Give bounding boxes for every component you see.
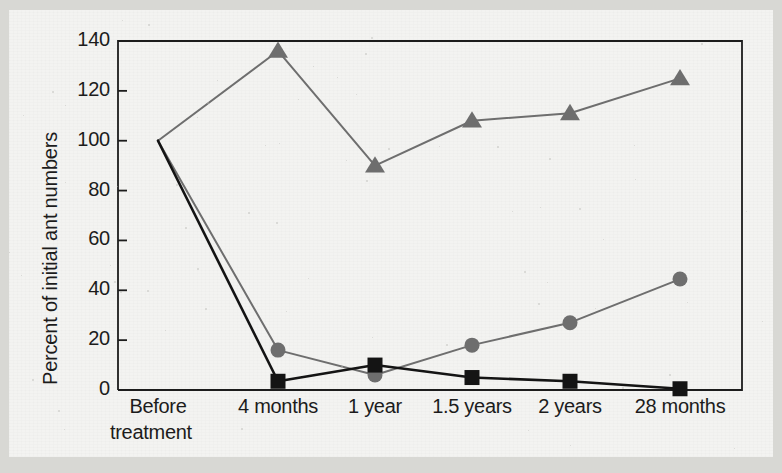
paper-speck: [540, 207, 541, 208]
paper-speck: [207, 102, 209, 104]
y-axis-tick-marks: [118, 91, 127, 340]
paper-speck: [65, 182, 66, 183]
paper-speck: [205, 308, 207, 310]
paper-speck: [603, 239, 604, 240]
paper-speck: [110, 265, 111, 266]
paper-speck: [55, 202, 56, 203]
paper-speck: [669, 374, 671, 376]
paper-speck: [114, 281, 116, 283]
paper-speck: [341, 366, 343, 368]
paper-speck: [388, 148, 390, 150]
series-line: [158, 141, 680, 389]
paper-speck: [528, 430, 529, 431]
paper-speck: [570, 445, 571, 446]
paper-speck: [23, 115, 24, 116]
paper-speck: [446, 344, 448, 346]
paper-speck: [265, 145, 266, 146]
paper-speck: [356, 94, 357, 95]
paper-speck: [524, 271, 526, 273]
paper-speck: [579, 208, 581, 210]
paper-speck: [547, 282, 548, 283]
paper-speck: [497, 146, 499, 148]
data-point-triangle: [268, 41, 288, 57]
paper-speck: [148, 24, 150, 26]
paper-speck: [147, 290, 149, 292]
paper-speck: [57, 382, 58, 383]
data-point-square: [563, 374, 578, 389]
paper-speck: [43, 268, 44, 269]
paper-speck: [122, 20, 123, 21]
data-series-layer: [158, 41, 690, 396]
paper-speck: [634, 145, 635, 146]
paper-speck: [279, 143, 280, 144]
paper-speck: [365, 53, 367, 55]
chart-paper: Percent of initial ant numbers 020406080…: [9, 10, 773, 457]
paper-speck: [32, 379, 34, 381]
paper-speck: [439, 146, 440, 147]
paper-speck: [176, 184, 178, 186]
data-point-square: [271, 374, 286, 389]
series-line: [158, 51, 680, 166]
paper-speck: [65, 105, 66, 106]
paper-speck: [734, 448, 735, 449]
paper-speck: [308, 278, 309, 279]
paper-speck: [107, 93, 108, 94]
paper-speck: [746, 211, 747, 212]
data-point-circle: [563, 315, 578, 330]
paper-speck: [120, 291, 122, 293]
paper-speck: [622, 387, 624, 389]
paper-speck: [52, 91, 54, 93]
paper-speck: [286, 311, 287, 312]
series-gray-circle-series: [158, 141, 680, 375]
paper-speck: [298, 99, 299, 100]
paper-speck: [9, 252, 10, 253]
paper-speck: [595, 308, 596, 309]
series-black-square-series: [158, 141, 680, 389]
paper-speck: [248, 212, 250, 214]
paper-speck: [241, 428, 243, 430]
paper-speck: [185, 227, 187, 229]
paper-speck: [701, 43, 703, 45]
paper-speck: [21, 275, 22, 276]
axes-frame: [118, 41, 742, 390]
data-point-square: [368, 358, 383, 373]
paper-speck: [58, 410, 60, 412]
paper-speck: [276, 222, 278, 224]
paper-speck: [165, 330, 166, 331]
paper-speck: [117, 186, 118, 187]
data-point-circle: [465, 338, 480, 353]
paper-speck: [686, 276, 687, 277]
paper-speck: [371, 37, 373, 39]
series-gray-triangle-series: [158, 51, 680, 166]
paper-speck: [217, 80, 218, 81]
paper-speck: [337, 77, 338, 78]
paper-speck: [687, 302, 688, 303]
paper-speck: [346, 160, 347, 161]
paper-speck: [197, 268, 199, 270]
paper-speck: [538, 303, 540, 305]
paper-speck: [64, 429, 65, 430]
data-point-square: [673, 381, 688, 396]
paper-speck: [313, 66, 314, 67]
paper-speck: [635, 179, 636, 180]
data-point-circle: [673, 272, 688, 287]
paper-speck: [372, 337, 373, 338]
paper-speck: [549, 158, 551, 160]
data-point-square: [465, 370, 480, 385]
paper-speck: [366, 180, 368, 182]
series-line: [158, 141, 680, 375]
paper-speck: [197, 117, 198, 118]
paper-speck: [762, 321, 763, 322]
markers-gray-circle-series: [271, 272, 688, 383]
figure-canvas: Percent of initial ant numbers 020406080…: [0, 0, 782, 473]
data-point-triangle: [670, 69, 690, 85]
markers-gray-triangle-series: [268, 41, 690, 172]
paper-speck: [512, 211, 513, 212]
plot-area: [9, 10, 773, 457]
data-point-circle: [271, 343, 286, 358]
